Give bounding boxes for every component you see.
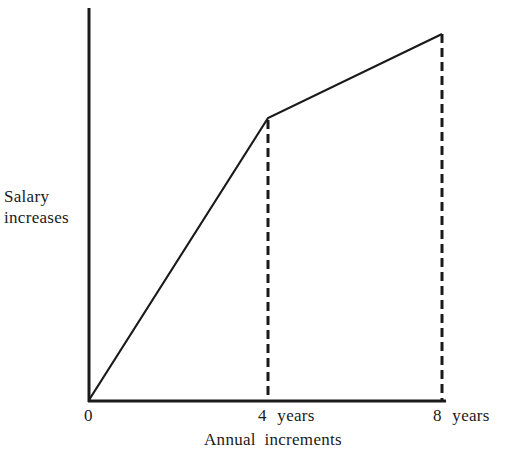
y-axis-label-line2: increases <box>4 207 94 228</box>
chart-canvas <box>0 0 507 457</box>
x-tick-0: 0 <box>84 406 93 426</box>
x-axis-label: Annual increments <box>204 430 342 450</box>
x-tick-4-years: 4 years <box>258 406 315 426</box>
x-tick-8-years: 8 years <box>433 406 490 426</box>
y-axis-label-line1: Salary <box>4 186 94 207</box>
salary-line <box>89 34 442 400</box>
y-axis-label: Salary increases <box>4 186 94 228</box>
